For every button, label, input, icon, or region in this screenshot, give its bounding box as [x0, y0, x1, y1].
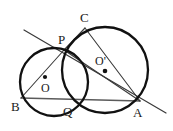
segment-B-to-A: [21, 98, 140, 101]
center-dot-group: [43, 69, 107, 79]
circle-O: [20, 48, 88, 116]
center-dot-O: [43, 75, 47, 79]
label-point-P: P: [58, 33, 65, 46]
geometry-figure: P C B Q A O O': [0, 0, 173, 131]
center-dot-O-prime: [103, 69, 108, 74]
circle-group: [20, 27, 148, 116]
segment-group: [21, 28, 166, 113]
label-center-O-prime: O': [95, 55, 106, 67]
label-point-Q: Q: [63, 105, 72, 118]
label-point-C: C: [80, 11, 89, 24]
label-center-O: O: [41, 82, 50, 94]
label-point-B: B: [11, 100, 20, 113]
segment-C-to-A: [85, 28, 140, 101]
label-point-A: A: [133, 106, 142, 119]
